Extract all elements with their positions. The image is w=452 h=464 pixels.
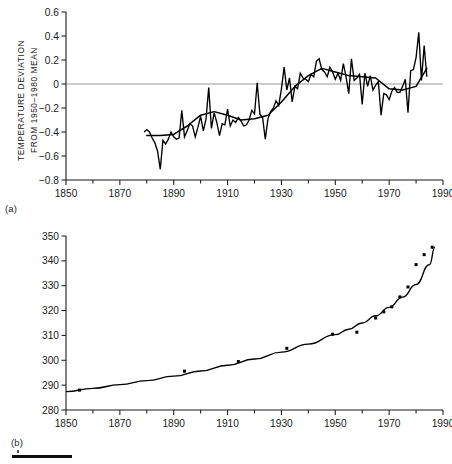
y-tick-label: 310: [42, 330, 59, 341]
x-tick-label: 1950: [324, 188, 347, 199]
y-tick-label: 290: [42, 380, 59, 391]
x-tick-label: 1890: [162, 188, 185, 199]
y-tick-label: 330: [42, 280, 59, 291]
y-tick-label: 0: [53, 79, 59, 90]
series-fitted-curve: [66, 247, 435, 391]
scale-bar-tick: [17, 450, 19, 453]
y-tick-label: 350: [42, 231, 59, 242]
data-point: [431, 246, 434, 249]
panel-a-label: (a): [5, 203, 17, 214]
y-tick-label: 280: [42, 405, 59, 416]
series-smooth-line: [147, 68, 427, 135]
x-tick-label: 1850: [55, 188, 78, 199]
x-tick-label: 1990: [432, 418, 452, 429]
data-point: [374, 317, 377, 320]
chart-a-plot: −0.8−0.6−0.4−0.200.20.40.618501870189019…: [0, 0, 452, 218]
chart-b-plot: 2802903003103203303403501850187018901910…: [0, 218, 452, 464]
data-point: [406, 285, 409, 288]
y-tick-label: 0.4: [45, 31, 59, 42]
data-point: [423, 253, 426, 256]
chart-panel-a: TEMPERATURE DEVIATION FROM 1950–1980 MEA…: [0, 0, 452, 218]
x-tick-label: 1930: [270, 418, 293, 429]
x-tick-label: 1970: [378, 418, 401, 429]
y-tick-label: −0.4: [39, 127, 59, 138]
x-tick-label: 1950: [324, 418, 347, 429]
x-tick-label: 1890: [162, 418, 185, 429]
x-tick-label: 1910: [216, 418, 239, 429]
y-tick-label: 0.2: [45, 55, 59, 66]
y-tick-label: −0.2: [39, 103, 59, 114]
figure-container: TEMPERATURE DEVIATION FROM 1950–1980 MEA…: [0, 0, 452, 464]
y-tick-label: 0.6: [45, 7, 59, 18]
y-tick-label: −0.8: [39, 175, 59, 186]
series-annual-line: [144, 32, 427, 169]
y-tick-label: −0.6: [39, 151, 59, 162]
x-tick-label: 1970: [378, 188, 401, 199]
x-tick-label: 1850: [55, 418, 78, 429]
x-tick-label: 1990: [432, 188, 452, 199]
x-tick-label: 1930: [270, 188, 293, 199]
x-tick-label: 1870: [109, 188, 132, 199]
y-tick-label: 300: [42, 355, 59, 366]
x-tick-label: 1870: [109, 418, 132, 429]
panel-b-label: (b): [11, 437, 23, 448]
data-point: [285, 347, 288, 350]
y-tick-label: 340: [42, 255, 59, 266]
y-tick-label: 320: [42, 305, 59, 316]
data-point: [415, 263, 418, 266]
chart-panel-b: CO2 CONCENTRATION (PARTS PER MILLION) 28…: [0, 218, 452, 464]
x-tick-label: 1910: [216, 188, 239, 199]
data-point: [355, 331, 358, 334]
data-point: [183, 370, 186, 373]
figure-scale-bar: [12, 455, 72, 458]
